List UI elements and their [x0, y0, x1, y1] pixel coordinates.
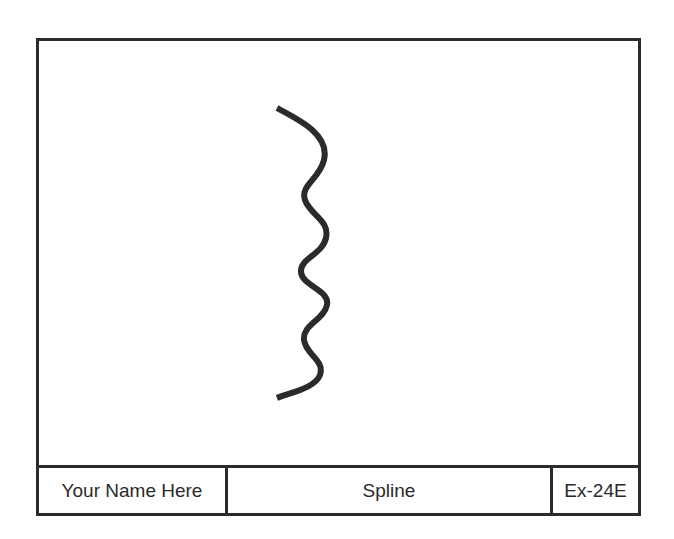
title-block-title-cell: Spline: [228, 468, 553, 513]
drawing-area: [39, 41, 638, 465]
title-block: Your Name Here Spline Ex-24E: [39, 465, 638, 513]
title-block-number-cell: Ex-24E: [553, 468, 638, 513]
drawing-sheet-frame: Your Name Here Spline Ex-24E: [36, 38, 641, 516]
drawing-title-label: Spline: [363, 480, 416, 502]
title-block-name-cell: Your Name Here: [39, 468, 228, 513]
spline-curve: [277, 108, 327, 398]
author-name-label: Your Name Here: [62, 480, 203, 502]
drawing-canvas: [0, 0, 674, 539]
exercise-number-label: Ex-24E: [564, 480, 626, 502]
